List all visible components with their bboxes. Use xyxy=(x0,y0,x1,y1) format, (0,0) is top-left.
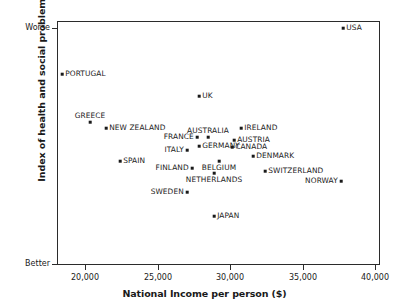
data-point-label-finland: FINLAND xyxy=(156,164,189,171)
data-point-ireland[interactable] xyxy=(240,127,243,130)
x-axis-tick-mark xyxy=(85,265,86,270)
data-point-switzerland[interactable] xyxy=(264,170,267,173)
x-axis-tick-label-20000: 20,000 xyxy=(71,273,99,282)
data-point-sweden[interactable] xyxy=(186,191,189,194)
data-point-usa[interactable] xyxy=(342,27,345,30)
data-point-label-denmark: DENMARK xyxy=(256,152,294,159)
data-point-label-norway: NORWAY xyxy=(305,177,338,184)
y-axis-tick-label-better: Better xyxy=(25,259,50,268)
x-axis-tick-label-35000: 35,000 xyxy=(289,273,317,282)
data-point-label-belgium: BELGIUM xyxy=(202,164,236,171)
data-point-greece[interactable] xyxy=(89,121,92,124)
x-axis-tick-label-40000: 40,000 xyxy=(361,273,389,282)
data-point-australia[interactable] xyxy=(207,136,210,139)
data-point-norway[interactable] xyxy=(340,180,343,183)
data-point-label-ireland: IRELAND xyxy=(244,124,277,131)
scatter-plot-figure: Index of health and social problems Wors… xyxy=(0,0,409,308)
data-point-canada[interactable] xyxy=(231,146,234,149)
data-point-label-greece: GREECE xyxy=(75,111,106,118)
data-point-label-canada: CANADA xyxy=(235,143,267,150)
data-point-label-portugal: PORTUGAL xyxy=(65,70,106,77)
x-axis-tick-label-25000: 25,000 xyxy=(144,273,172,282)
data-point-label-sweden: SWEDEN xyxy=(151,188,184,195)
data-point-uk[interactable] xyxy=(198,95,201,98)
data-point-germany[interactable] xyxy=(198,145,201,148)
data-point-label-france: FRANCE xyxy=(164,133,194,140)
data-point-belgium[interactable] xyxy=(218,160,221,163)
x-axis-tick-mark xyxy=(158,265,159,270)
x-axis-tick-mark xyxy=(303,265,304,270)
data-point-spain[interactable] xyxy=(119,160,122,163)
data-point-label-japan: JAPAN xyxy=(217,212,239,219)
data-point-denmark[interactable] xyxy=(252,155,255,158)
data-point-label-switzerland: SWITZERLAND xyxy=(268,167,323,174)
data-point-label-italy: ITALY xyxy=(164,146,183,153)
plot-area: USAPORTUGALUKGREECENEW ZEALANDIRELANDAUS… xyxy=(57,21,380,265)
data-point-label-new-zealand: NEW ZEALAND xyxy=(109,124,165,131)
data-point-portugal[interactable] xyxy=(61,73,64,76)
data-point-label-netherlands: NETHERLANDS xyxy=(186,176,242,183)
data-point-netherlands[interactable] xyxy=(213,172,216,175)
data-point-label-uk: UK xyxy=(202,92,212,99)
data-point-finland[interactable] xyxy=(191,167,194,170)
data-point-france[interactable] xyxy=(196,136,199,139)
x-axis-tick-mark xyxy=(230,265,231,270)
data-point-label-usa: USA xyxy=(346,24,362,31)
data-point-new-zealand[interactable] xyxy=(105,127,108,130)
x-axis-tick-label-30000: 30,000 xyxy=(216,273,244,282)
x-axis-tick-mark xyxy=(375,265,376,270)
data-point-italy[interactable] xyxy=(186,149,189,152)
data-point-label-spain: SPAIN xyxy=(123,157,145,164)
data-point-japan[interactable] xyxy=(213,215,216,218)
x-axis-title: National Income per person ($) xyxy=(0,288,409,299)
y-axis-tick-label-worse: Worse xyxy=(25,23,50,32)
